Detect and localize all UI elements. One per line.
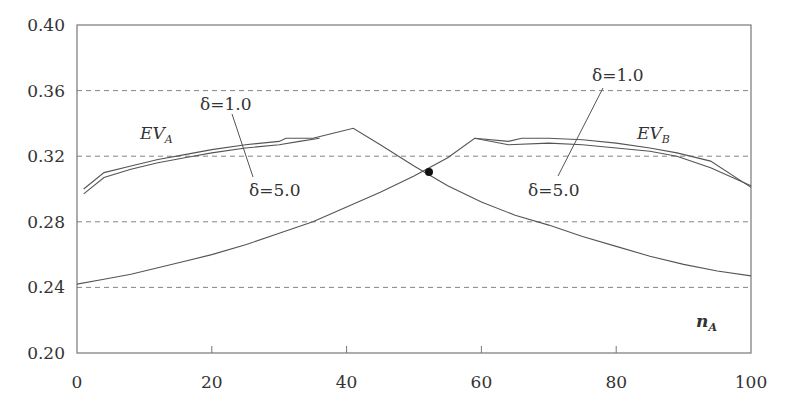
series-line-3	[475, 138, 751, 186]
series-line-2	[77, 138, 751, 284]
x-tick-label: 20	[201, 372, 223, 392]
x-tick-label: 100	[735, 372, 767, 392]
y-tick-label: 0.32	[27, 146, 65, 166]
series-lines	[77, 128, 751, 284]
plot-frame	[77, 25, 751, 353]
y-tick-label: 0.20	[27, 343, 65, 363]
x-tick-label: 60	[471, 372, 493, 392]
x-tick-label: 80	[605, 372, 627, 392]
y-tick-label: 0.40	[27, 15, 65, 35]
label-delta5-right: δ=5.0	[528, 180, 580, 200]
chart: 020406080100 0.200.240.280.320.360.40 EV…	[0, 0, 790, 417]
x-axis-label: nA	[696, 311, 717, 334]
intersection-marker	[425, 168, 433, 176]
label-ev-a: EVA	[139, 123, 173, 146]
y-axis-ticks: 0.200.240.280.320.360.40	[27, 15, 65, 363]
grid-lines	[77, 91, 751, 288]
y-tick-label: 0.28	[27, 212, 65, 232]
x-tick-label: 40	[336, 372, 358, 392]
label-ev-b: EVB	[636, 123, 670, 146]
label-delta5-left: δ=5.0	[249, 180, 301, 200]
y-tick-label: 0.36	[27, 81, 65, 101]
label-delta1-left: δ=1.0	[200, 94, 252, 114]
leader-line-left	[232, 114, 253, 177]
x-tick-label: 0	[72, 372, 83, 392]
y-tick-label: 0.24	[27, 277, 65, 297]
label-delta1-right: δ=1.0	[592, 65, 644, 85]
leader-line-right	[558, 88, 603, 176]
series-line-0	[84, 128, 751, 276]
